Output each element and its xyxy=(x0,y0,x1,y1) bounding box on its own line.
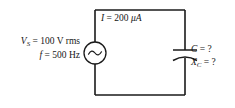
capacitance-label: C = ? xyxy=(191,43,216,56)
reactance-value-text: = ? xyxy=(204,57,216,67)
source-frequency-label: f = 500 Hz xyxy=(6,50,80,61)
voltage-value-text: = 100 V rms xyxy=(33,36,81,46)
current-label: I = 200 μA xyxy=(101,13,141,24)
current-unit: μA xyxy=(131,13,142,23)
voltage-subscript: S xyxy=(27,40,31,48)
frequency-value-text: = 500 Hz xyxy=(45,50,80,60)
reactance-subscript: C xyxy=(197,60,202,68)
capacitance-value-text: = ? xyxy=(200,44,212,54)
capacitor-label-group: C = ? XC = ? xyxy=(191,43,216,71)
source-voltage-label: VS = 100 V rms xyxy=(6,36,80,50)
current-symbol: I xyxy=(101,13,104,23)
circuit-diagram: VS = 100 V rms f = 500 Hz I = 200 μA C =… xyxy=(0,0,235,108)
reactance-label: XC = ? xyxy=(191,56,216,71)
capacitance-symbol: C xyxy=(191,44,197,54)
source-label-group: VS = 100 V rms f = 500 Hz xyxy=(6,36,80,61)
frequency-symbol: f xyxy=(40,50,43,60)
current-value-text: = 200 xyxy=(107,13,129,23)
